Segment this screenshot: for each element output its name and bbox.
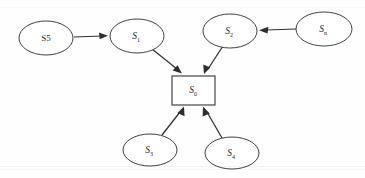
node-s2-shape[interactable]: [203, 14, 257, 48]
node-s4-shape[interactable]: [205, 137, 259, 169]
edge-line-s4-s0: [207, 112, 222, 138]
node-s3-shape[interactable]: [123, 134, 177, 166]
node-s0-center[interactable]: S0: [172, 76, 215, 105]
node-s3[interactable]: S3: [123, 134, 177, 166]
edge-line-sn-s2: [266, 29, 296, 30]
edge-line-s3-s0: [162, 112, 180, 135]
edge-s5-to-s1: [74, 32, 108, 39]
node-s3-label-sub: 3: [150, 151, 153, 157]
node-s0-label-sub: 0: [194, 91, 197, 97]
node-s1-shape[interactable]: [110, 19, 164, 53]
node-s1[interactable]: S1: [110, 19, 164, 53]
node-sn[interactable]: Sn: [296, 12, 352, 46]
arrow-head-sn-s2: [259, 27, 268, 34]
node-layer: S5 S1 S2 Sn S3: [19, 12, 352, 169]
diagram-canvas: S5 S1 S2 Sn S3: [0, 0, 365, 178]
edge-s3-to-s0: [162, 107, 185, 136]
edge-s4-to-s0: [203, 107, 222, 139]
edge-line-s2-s0: [208, 46, 223, 69]
edge-line-s1-s0: [152, 49, 177, 69]
node-s2-label-sub: 2: [230, 32, 233, 38]
edge-line-s5-s1: [74, 36, 102, 37]
node-sn-label-sub: n: [324, 30, 327, 36]
edge-s2-to-s0: [203, 46, 223, 74]
node-s5-label: S5: [41, 33, 51, 43]
node-s4-label-sub: 4: [232, 154, 235, 160]
edge-sn-to-s2: [259, 27, 296, 34]
node-s4[interactable]: S4: [205, 137, 259, 169]
node-s1-label-sub: 1: [137, 37, 140, 43]
node-sn-shape[interactable]: [296, 12, 352, 46]
edge-s1-to-s0: [152, 49, 182, 74]
node-s5[interactable]: S5: [19, 21, 73, 55]
node-s2[interactable]: S2: [203, 14, 257, 48]
diagram-svg: S5 S1 S2 Sn S3: [0, 0, 365, 178]
arrow-head-s5-s1: [99, 32, 108, 39]
